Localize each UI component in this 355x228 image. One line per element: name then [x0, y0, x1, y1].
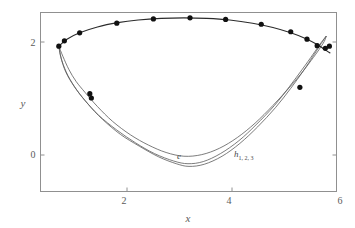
- plot-canvas: 2 4 6 0 2 x y e h1, 2, 3: [0, 0, 355, 228]
- curve-h1: [59, 36, 327, 166]
- frame-rect: [41, 13, 337, 192]
- data-marker: [304, 37, 309, 42]
- data-marker: [89, 95, 94, 100]
- curve-annotations: e h1, 2, 3: [177, 149, 254, 161]
- data-marker: [62, 38, 67, 43]
- x-tick-label-6: 6: [338, 195, 343, 206]
- data-marker: [315, 43, 320, 48]
- data-marker: [259, 22, 264, 27]
- data-marker: [151, 16, 156, 21]
- data-markers: [56, 15, 332, 100]
- x-axis-ticks: [127, 188, 337, 192]
- data-marker: [114, 21, 119, 26]
- y-axis-title: y: [20, 97, 26, 109]
- curve-e: [59, 36, 327, 156]
- data-marker: [187, 15, 192, 20]
- data-curves: [59, 18, 331, 167]
- data-marker: [288, 29, 293, 34]
- plot-frame: [41, 13, 337, 192]
- y-axis-ticks: [41, 42, 337, 155]
- data-marker: [77, 30, 82, 35]
- data-marker: [297, 85, 302, 90]
- x-axis-title: x: [185, 212, 191, 224]
- figure-container: 2 4 6 0 2 x y e h1, 2, 3: [0, 0, 355, 228]
- y-tick-label-2: 2: [31, 37, 36, 48]
- curve-outer-upper: [59, 18, 331, 53]
- annotation-e: e: [177, 151, 181, 161]
- x-tick-label-2: 2: [122, 195, 127, 206]
- data-marker: [327, 44, 332, 49]
- data-marker: [56, 44, 61, 49]
- annotation-h-subscript: 1, 2, 3: [239, 155, 254, 161]
- data-marker: [223, 17, 228, 22]
- x-tick-label-4: 4: [227, 195, 232, 206]
- curve-h2: [59, 36, 327, 164]
- y-tick-label-0: 0: [31, 149, 36, 160]
- annotation-h: h1, 2, 3: [234, 149, 254, 161]
